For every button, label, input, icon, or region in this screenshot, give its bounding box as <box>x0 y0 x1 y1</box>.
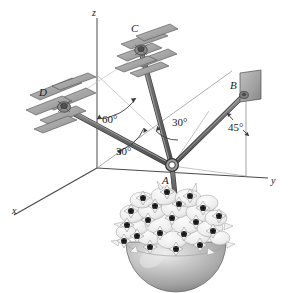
point-c-label: C <box>131 22 139 34</box>
angle-label-30-ac: 30° <box>172 116 187 128</box>
x-axis-label: x <box>11 205 17 216</box>
rod-ad <box>64 108 172 166</box>
joint-a-ring-inner <box>169 162 176 169</box>
point-a-label: A <box>161 174 169 186</box>
z-axis-label: z <box>91 7 96 18</box>
angle-label-45: 45° <box>228 121 243 133</box>
flower-basket <box>111 181 235 292</box>
support-b-pin <box>242 93 246 96</box>
x-axis-line <box>14 168 97 215</box>
support-c-bracket: C <box>115 22 178 77</box>
statics-diagram: z y x <box>0 0 296 293</box>
angle-label-30-ad: 30° <box>116 145 131 157</box>
point-d-label: D <box>38 86 47 98</box>
support-d-bracket: D <box>26 73 96 133</box>
support-b-plate: B <box>230 70 261 102</box>
angle-arrow-60-b <box>131 98 136 103</box>
y-axis-label: y <box>270 175 276 186</box>
angle-arc-30-ac <box>156 131 178 140</box>
figure-canvas: z y x <box>0 0 296 293</box>
support-d-hub <box>58 101 71 112</box>
support-c-hub <box>135 45 147 55</box>
point-b-label: B <box>230 79 237 91</box>
y-axis-line <box>97 168 268 178</box>
angle-label-60: 60° <box>102 113 117 125</box>
angle-arrow-45-a <box>227 113 232 117</box>
